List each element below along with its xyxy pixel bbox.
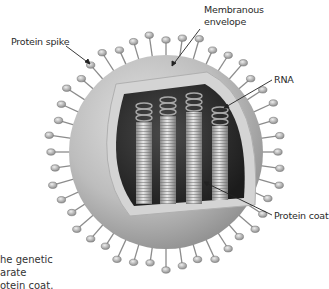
figure-caption: he genetic arate otein coat. [0, 253, 53, 289]
label-membranous-envelope-line2: envelope [204, 16, 246, 27]
label-protein-spike: Protein spike [11, 36, 69, 47]
caption-line-1: he genetic [0, 253, 53, 266]
label-protein-coat: Protein coat [274, 210, 329, 221]
caption-line-3: otein coat. [0, 279, 53, 289]
caption-line-2: arate [0, 266, 53, 279]
label-rna: RNA [274, 74, 294, 85]
label-membranous-envelope-line1: Membranous [204, 4, 264, 15]
